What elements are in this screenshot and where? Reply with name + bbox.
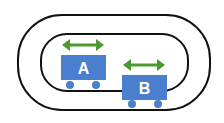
wheel	[154, 100, 162, 108]
double-arrow-icon	[62, 39, 104, 51]
cart-b: B	[122, 59, 167, 108]
outer-track	[18, 15, 210, 110]
cart-label: B	[139, 80, 151, 97]
cart-a: A	[61, 39, 106, 89]
track-diagram: A B	[0, 0, 224, 123]
double-arrow-icon	[123, 59, 165, 71]
wheel	[92, 81, 100, 89]
cart-label: A	[78, 60, 90, 77]
wheel	[128, 100, 136, 108]
wheel	[66, 81, 74, 89]
